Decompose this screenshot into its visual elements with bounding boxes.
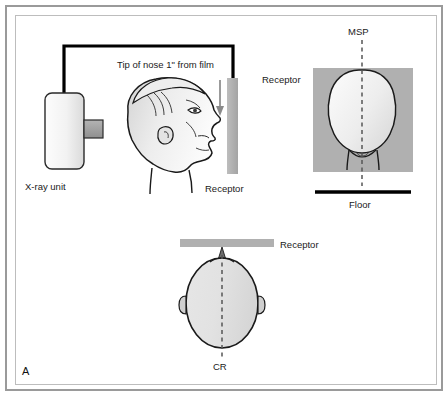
posterior-projection-panel: MSP Receptor Floor	[262, 26, 413, 210]
diagram-canvas: X-ray unit Tip of nose 1" from film Rece…	[0, 0, 448, 396]
receptor-bar-superior	[180, 239, 274, 247]
floor-label: Floor	[349, 199, 371, 210]
receptor-label-superior: Receptor	[280, 239, 319, 250]
receptor-label-posterior: Receptor	[262, 74, 301, 85]
nose-distance-note: Tip of nose 1" from film	[117, 59, 214, 70]
msp-label: MSP	[348, 26, 369, 37]
receptor-strip-lateral	[227, 78, 238, 174]
head-lateral-illustration	[128, 78, 221, 194]
receptor-label-lateral: Receptor	[205, 183, 244, 194]
lateral-projection-panel: X-ray unit Tip of nose 1" from film Rece…	[25, 46, 244, 194]
panel-letter-label: A	[22, 365, 30, 377]
figure-root: X-ray unit Tip of nose 1" from film Rece…	[0, 0, 448, 396]
xray-collimator-cone	[84, 120, 103, 138]
superior-projection-panel: Receptor CR	[179, 239, 319, 372]
xray-unit-label: X-ray unit	[25, 181, 66, 192]
direction-arrow-icon	[216, 80, 224, 116]
cr-label: CR	[213, 361, 227, 372]
xray-unit-body	[45, 93, 84, 169]
